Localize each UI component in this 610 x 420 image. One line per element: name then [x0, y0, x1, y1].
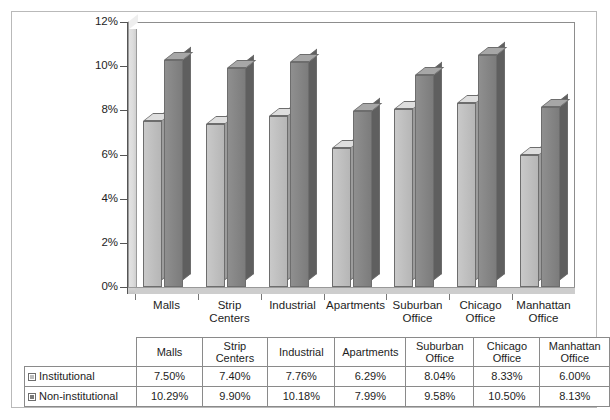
legend-non-institutional[interactable]: Non-institutional: [25, 387, 137, 407]
x-axis-label-line2: Centers: [192, 312, 267, 325]
y-axis-tick-label: 2%: [18, 237, 118, 249]
bar-front-face: [227, 68, 246, 287]
table-body: Institutional7.50%7.40%7.76%6.29%8.04%8.…: [25, 367, 610, 407]
table-cell: 9.90%: [202, 387, 268, 407]
table-corner-cell: [25, 338, 137, 367]
bar-institutional-manhattan-office[interactable]: [520, 155, 539, 288]
table-header-industrial: Industrial: [268, 338, 335, 367]
bar-institutional-suburban-office[interactable]: [394, 109, 413, 287]
table-cell: 10.18%: [268, 387, 335, 407]
bar-institutional-chicago-office[interactable]: [457, 103, 476, 287]
swatch-fill: [29, 394, 35, 400]
bar-institutional-malls[interactable]: [143, 121, 162, 287]
table-row: Non-institutional10.29%9.90%10.18%7.99%9…: [25, 387, 610, 407]
table-cell: 7.99%: [335, 387, 406, 407]
bar-front-face: [290, 62, 309, 287]
table-header-line2: Centers: [207, 352, 264, 365]
bar-front-face: [457, 103, 476, 287]
bar-side-face: [372, 97, 380, 280]
bar-front-face: [520, 155, 539, 288]
table-cell: 10.29%: [137, 387, 202, 407]
y-axis-line: [127, 22, 128, 294]
bar-side-face: [309, 49, 317, 280]
bar-front-face: [478, 55, 497, 287]
table-header-apartments: Apartments: [335, 338, 406, 367]
bar-non-institutional-malls[interactable]: [164, 60, 183, 287]
bar-non-institutional-manhattan-office[interactable]: [541, 107, 560, 287]
bar-front-face: [415, 75, 434, 287]
bar-side-face: [434, 62, 442, 280]
y-axis-tick-label: 6%: [18, 149, 118, 161]
table-header-line1: Suburban: [410, 340, 469, 353]
bar-front-face: [353, 111, 372, 287]
bar-front-face: [143, 121, 162, 287]
table-header-line1: Industrial: [272, 346, 330, 359]
table-row: Institutional7.50%7.40%7.76%6.29%8.04%8.…: [25, 367, 610, 387]
table-header-row: MallsStripCentersIndustrialApartmentsSub…: [25, 338, 610, 367]
x-axis-label-manhattan-office: ManhattanOffice: [506, 299, 581, 325]
table-header-chicago: ChicagoOffice: [474, 338, 540, 367]
table-cell: 6.29%: [335, 367, 406, 387]
y-axis-labels: 12%10%8%6%4%2%0%: [10, 0, 118, 316]
x-axis-label-line2: Office: [506, 312, 581, 325]
table-header-line2: Office: [478, 352, 535, 365]
bar-non-institutional-chicago-office[interactable]: [478, 55, 497, 287]
bar-non-institutional-suburban-office[interactable]: [415, 75, 434, 287]
institutional-swatch: [28, 373, 36, 381]
table-header-line1: Chicago: [478, 340, 535, 353]
bar-side-face: [183, 47, 191, 280]
bar-institutional-strip-centers[interactable]: [206, 124, 225, 287]
bar-front-face: [332, 148, 351, 287]
bar-chart: 12%10%8%6%4%2%0% MallsStripCentersIndust…: [0, 0, 610, 316]
y-axis-tick: [120, 287, 128, 288]
bar-non-institutional-strip-centers[interactable]: [227, 68, 246, 287]
y-axis-tick: [120, 22, 128, 23]
table-cell: 7.40%: [202, 367, 268, 387]
x-axis-label-line1: Manhattan: [506, 299, 581, 312]
data-table: MallsStripCentersIndustrialApartmentsSub…: [24, 337, 610, 407]
table-cell: 6.00%: [540, 367, 610, 387]
bar-side-face: [497, 42, 505, 280]
y-axis-tick-label: 10%: [18, 60, 118, 72]
bar-front-face: [206, 124, 225, 287]
y-axis-tick: [120, 243, 128, 244]
bar-front-face: [164, 60, 183, 287]
bar-institutional-apartments[interactable]: [332, 148, 351, 287]
plot-floor-front: [135, 287, 575, 294]
table-cell: 7.76%: [268, 367, 335, 387]
table-header-manhattan: ManhattanOffice: [540, 338, 610, 367]
table-cell: 8.33%: [474, 367, 540, 387]
non-institutional-swatch: [28, 393, 36, 401]
legend-label: Non-institutional: [39, 390, 118, 402]
y-axis-tick: [120, 66, 128, 67]
bar-front-face: [541, 107, 560, 287]
table-head: MallsStripCentersIndustrialApartmentsSub…: [25, 338, 610, 367]
table-header-suburban: SuburbanOffice: [406, 338, 474, 367]
table-header-line1: Strip: [207, 340, 264, 353]
table-cell: 7.50%: [137, 367, 202, 387]
table-cell: 9.58%: [406, 387, 474, 407]
table-cell: 8.13%: [540, 387, 610, 407]
bar-non-institutional-industrial[interactable]: [290, 62, 309, 287]
y-axis-tick: [120, 199, 128, 200]
bar-non-institutional-apartments[interactable]: [353, 111, 372, 287]
y-axis-tick-label: 12%: [18, 16, 118, 28]
table-cell: 8.04%: [406, 367, 474, 387]
table-header-line1: Apartments: [339, 346, 401, 359]
legend-label: Institutional: [39, 370, 95, 382]
table-header-line2: Office: [544, 352, 605, 365]
bar-front-face: [269, 116, 288, 287]
table-cell: 10.50%: [474, 387, 540, 407]
y-axis-tick-label: 4%: [18, 193, 118, 205]
bar-front-face: [394, 109, 413, 287]
table-header-malls: Malls: [137, 338, 202, 367]
bar-side-face: [246, 55, 254, 280]
bar-side-face: [560, 94, 568, 280]
y-axis-tick-label: 0%: [18, 281, 118, 293]
swatch-fill: [29, 374, 35, 380]
bar-institutional-industrial[interactable]: [269, 116, 288, 287]
y-axis-tick-label: 8%: [18, 104, 118, 116]
table-header-strip: StripCenters: [202, 338, 268, 367]
table-header-line1: Malls: [141, 346, 197, 359]
legend-institutional[interactable]: Institutional: [25, 367, 137, 387]
